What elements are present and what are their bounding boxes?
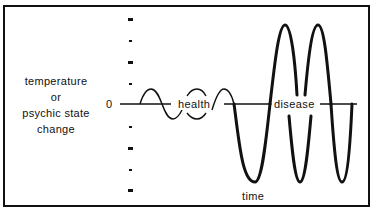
y-axis-ticks [128, 18, 133, 192]
y-axis-label: temperature or psychic state change [6, 73, 106, 137]
y-axis-label-line: change [6, 121, 106, 137]
disease-label: disease [274, 98, 315, 110]
y-axis-label-line: temperature [6, 73, 106, 89]
y-axis-label-line: or [6, 89, 106, 105]
zero-label: 0 [106, 98, 113, 110]
x-axis-label: time [242, 190, 264, 202]
health-label: health [178, 98, 210, 110]
y-axis-label-line: psychic state [6, 105, 106, 121]
